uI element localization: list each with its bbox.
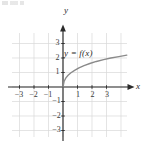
- y-tick-label: 2: [52, 54, 64, 62]
- x-tick-label: 3: [101, 91, 113, 99]
- curve-equation-label: y = f(x): [64, 49, 93, 58]
- y-axis-label: y: [64, 6, 68, 15]
- axes: [8, 25, 135, 142]
- y-tick-label: −3: [51, 126, 63, 134]
- y-tick-label: 1: [52, 68, 64, 76]
- function-curve: [63, 55, 127, 87]
- figure-panel: y x y = f(x) −3−2−1123−3−2−1123: [0, 0, 145, 151]
- y-tick-label: −2: [51, 112, 63, 120]
- x-tick-label: −2: [28, 91, 40, 99]
- x-tick-label: −3: [13, 91, 25, 99]
- x-axis-label: x: [136, 82, 140, 91]
- x-tick-label: 2: [87, 91, 99, 99]
- graph-canvas: [0, 0, 145, 151]
- y-tick-label: 3: [52, 39, 64, 47]
- x-tick-label: 1: [72, 91, 84, 99]
- y-tick-label: −1: [51, 97, 63, 105]
